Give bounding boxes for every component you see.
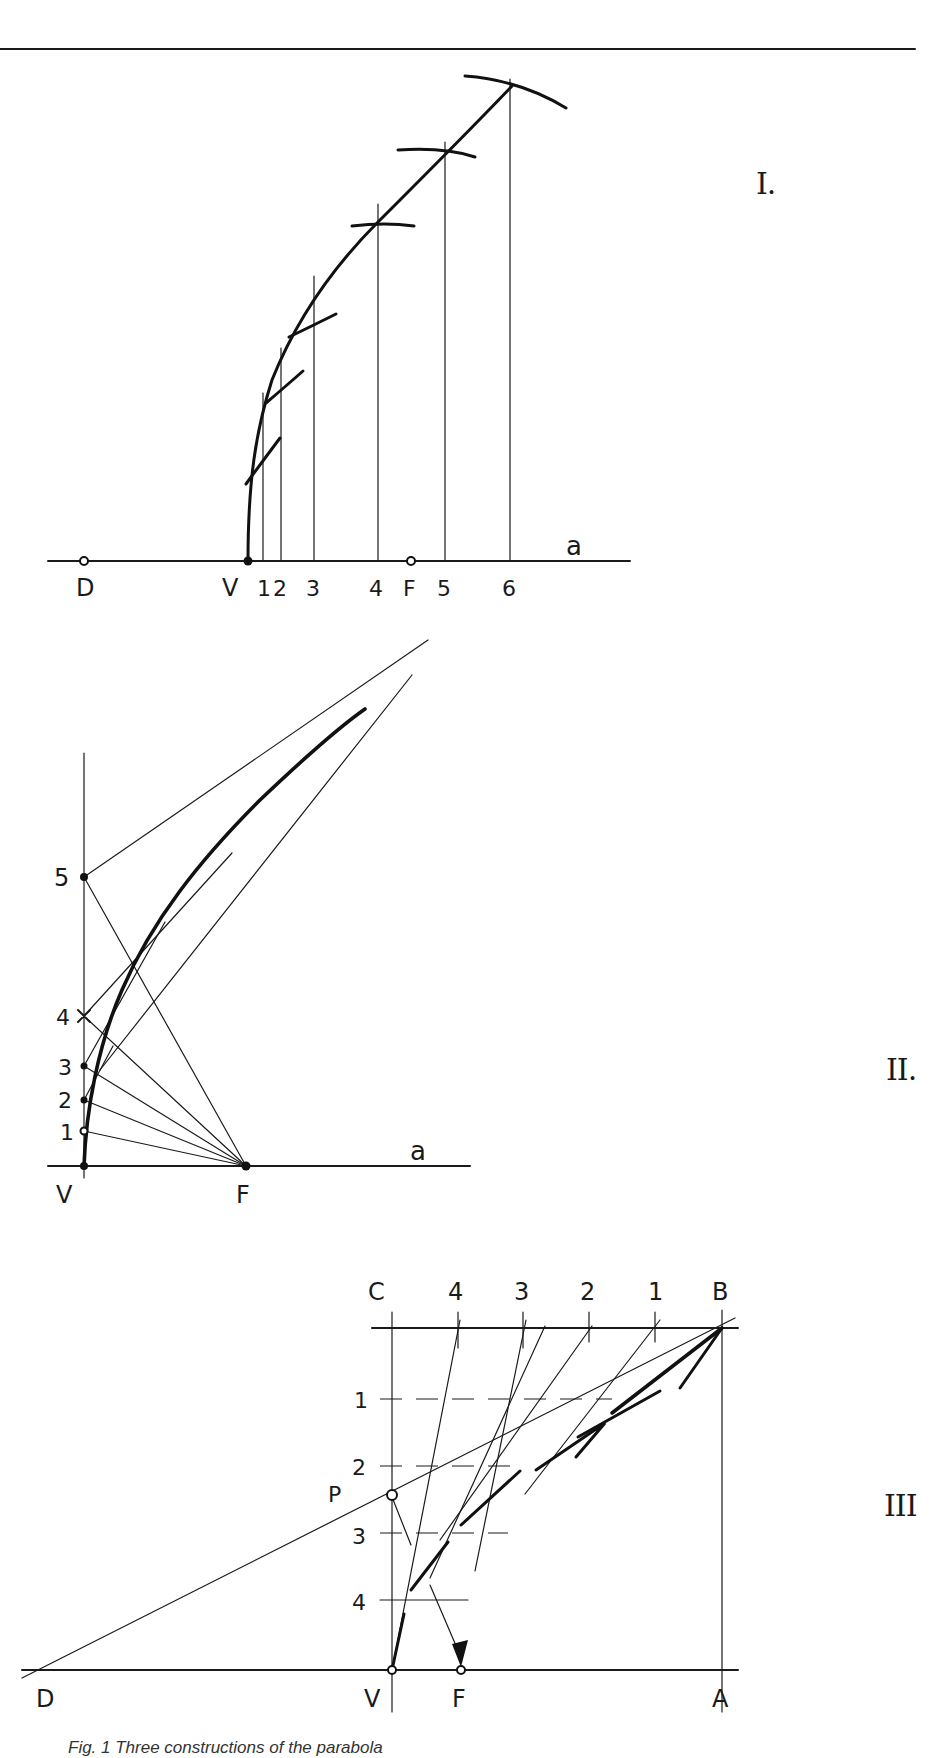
fig3-curve-seg-2 [411,1542,448,1590]
fig1-label-1: 1 [257,576,271,601]
fig2-point-2 [81,1097,88,1104]
fig1-point-V [244,557,253,566]
fig3-label-side-3: 3 [352,1524,366,1549]
fig3-curve-seg-1 [392,1614,404,1670]
figure-1: D V 1 2 3 4 F 5 6 a [48,76,630,602]
fig3-label-side-2: 2 [352,1455,366,1480]
figure-2: V F 1 2 3 4 5 a [48,640,470,1209]
fig2-point-3 [81,1063,88,1070]
fig2-tangent-long [100,675,412,1070]
figure-3-numeral: III [884,1488,917,1523]
fig1-point-F [407,557,415,565]
fig3-label-top-1: 1 [648,1278,663,1306]
figure-3: C 4 3 2 1 B 1 2 P 3 4 D V F A [22,1278,738,1713]
fig3-label-F: F [452,1685,466,1713]
fig1-label-axis-a: a [566,531,582,561]
fig3-label-top-4: 4 [448,1278,463,1306]
fig3-point-V [388,1666,396,1674]
fig2-ray-4 [84,1016,246,1166]
figure-1-numeral: I. [756,166,775,201]
fig3-ray-3 [430,1326,545,1578]
fig3-label-top-3: 3 [514,1278,529,1306]
fig2-label-2: 2 [58,1088,72,1113]
fig1-point-D [80,557,88,565]
fig1-label-4: 4 [369,576,383,601]
fig2-parabola-curve [84,709,365,1166]
fig3-label-C: C [368,1278,385,1306]
fig3-label-side-1: 1 [354,1388,368,1413]
fig3-label-side-4: 4 [352,1590,366,1615]
fig3-point-F [457,1666,465,1674]
fig2-point-V [80,1162,88,1170]
fig1-arc-4 [352,224,414,226]
fig2-point-5 [80,873,88,881]
fig1-label-6: 6 [502,576,516,601]
fig2-label-F: F [236,1181,250,1209]
fig2-tangent-3 [84,922,165,1066]
fig2-ray-3 [84,1066,246,1166]
fig2-label-5: 5 [54,864,69,892]
fig3-P-leader [392,1497,411,1545]
fig3-curve-seg-5 [578,1391,660,1437]
fig1-arc-5 [398,149,475,157]
fig3-curve-seg-4 [536,1423,605,1470]
fig1-label-V: V [222,574,239,602]
fig1-label-3: 3 [306,576,320,601]
fig2-ray-2 [84,1100,246,1166]
fig2-label-V: V [56,1181,73,1209]
fig1-arc-6 [465,76,566,108]
fig3-label-A: A [712,1685,729,1713]
fig1-label-D: D [76,574,94,602]
fig2-point-F [242,1162,251,1171]
fig3-curve-seg-7 [612,1328,722,1413]
figure-2-numeral: II. [886,1052,916,1087]
fig2-label-4: 4 [56,1005,70,1030]
fig1-label-5: 5 [437,576,451,601]
fig2-point-1 [81,1128,88,1135]
fig1-arc-2 [266,371,303,403]
fig3-tangent-DB [22,1318,735,1678]
fig3-label-P: P [328,1482,341,1507]
fig2-tangent-5 [84,640,428,877]
fig2-label-1: 1 [60,1120,74,1145]
fig2-label-3: 3 [58,1055,72,1080]
fig3-label-D: D [36,1685,54,1713]
fig3-point-P [387,1490,397,1500]
fig1-label-2: 2 [273,576,287,601]
fig3-label-top-2: 2 [580,1278,595,1306]
figure-caption: Fig. 1 Three constructions of the parabo… [68,1738,383,1758]
fig1-label-F: F [403,576,416,601]
fig3-arrowhead-icon [452,1640,468,1667]
fig2-ray-1 [84,1131,246,1166]
fig3-label-B: B [712,1278,728,1306]
fig3-ray-2 [440,1326,592,1540]
fig3-ray-1 [525,1320,660,1494]
fig3-label-V: V [364,1685,381,1713]
fig2-label-axis-a: a [410,1136,426,1166]
fig3-curve-seg-6 [680,1328,722,1388]
fig1-arc-3 [289,314,336,337]
